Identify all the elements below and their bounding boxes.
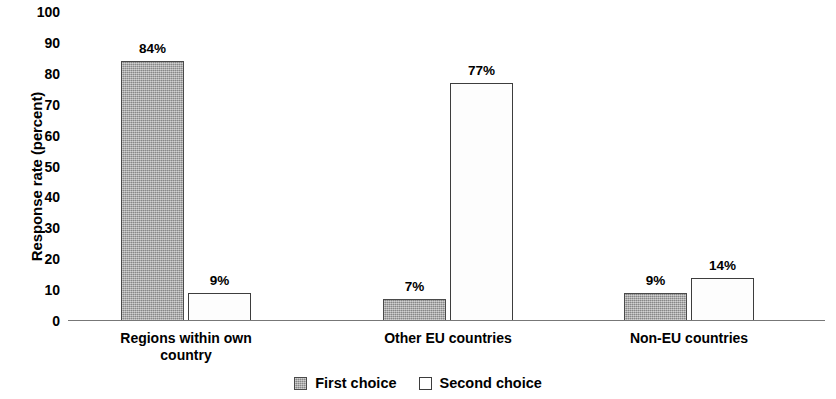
bar-value-label-second-group-3: 14% <box>679 259 766 273</box>
y-axis-tick-70: 70 <box>2 98 60 112</box>
x-axis-category-label-2: Other EU countries <box>338 330 558 347</box>
legend-label: First choice <box>315 376 396 391</box>
category-label-line: country <box>76 347 296 364</box>
y-axis-tick-50: 50 <box>2 160 60 174</box>
y-axis-tick-labels: 1009080706050403020100 <box>0 0 60 340</box>
bar-first-choice-group-2 <box>383 299 446 321</box>
y-axis-tick-20: 20 <box>2 252 60 266</box>
y-axis-tick-30: 30 <box>2 221 60 235</box>
category-label-line: Other EU countries <box>338 330 558 347</box>
bar-value-label-first-group-2: 7% <box>371 280 458 294</box>
y-axis-tick-0: 0 <box>2 314 60 328</box>
legend-item-first-choice[interactable]: First choice <box>294 376 396 391</box>
y-axis-tick-100: 100 <box>2 5 60 19</box>
bar-first-choice-group-3 <box>624 293 687 321</box>
bar-second-choice-group-2 <box>450 83 513 321</box>
y-axis-tick-40: 40 <box>2 190 60 204</box>
legend-label: Second choice <box>440 376 542 391</box>
bar-value-label-second-group-2: 77% <box>438 64 525 78</box>
category-label-line: Regions within own <box>76 330 296 347</box>
legend-swatch-icon-second <box>419 377 432 390</box>
y-axis-tick-80: 80 <box>2 67 60 81</box>
bar-second-choice-group-1 <box>188 293 251 321</box>
x-axis-category-label-3: Non-EU countries <box>579 330 799 347</box>
bar-value-label-first-group-3: 9% <box>612 274 699 288</box>
bar-value-label-first-group-1: 84% <box>109 42 196 56</box>
y-axis-tick-10: 10 <box>2 283 60 297</box>
legend-swatch-icon-first <box>294 377 307 390</box>
category-label-line: Non-EU countries <box>579 330 799 347</box>
bar-first-choice-group-1 <box>121 61 184 321</box>
bar-value-label-second-group-1: 9% <box>176 274 263 288</box>
legend: First choiceSecond choice <box>0 376 836 391</box>
x-axis-category-label-1: Regions within owncountry <box>76 330 296 364</box>
legend-item-second-choice[interactable]: Second choice <box>419 376 542 391</box>
bar-chart: Response rate (percent) 1009080706050403… <box>0 0 836 399</box>
y-axis-tick-90: 90 <box>2 36 60 50</box>
bar-second-choice-group-3 <box>691 278 754 321</box>
x-axis-baseline <box>68 320 825 321</box>
y-axis-tick-60: 60 <box>2 129 60 143</box>
